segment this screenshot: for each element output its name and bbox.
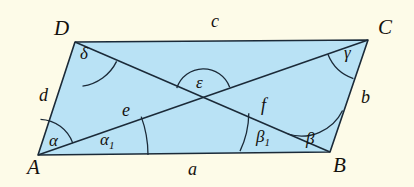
angle-label-alpha1-base: α [100,130,109,149]
geometry-figure: A B C D a b c d e f α α1 β β1 γ δ ε [0,0,414,187]
angle-label-gamma: γ [344,44,351,61]
vertex-label-a: A [27,157,40,178]
diagonal-label-f: f [261,96,266,114]
side-label-c: c [211,12,219,30]
angle-label-alpha: α [49,132,58,149]
angle-label-beta1-sub: 1 [264,136,270,148]
angle-label-delta: δ [80,45,88,62]
side-label-b: b [361,88,370,106]
angle-label-epsilon: ε [196,74,203,91]
angle-label-alpha1-sub: 1 [109,139,115,151]
side-label-d: d [39,86,48,104]
side-label-a: a [188,160,197,178]
angle-label-alpha1: α1 [100,131,114,151]
vertex-label-d: D [54,18,69,39]
diagonal-label-e: e [122,101,130,119]
vertex-label-c: C [378,17,392,38]
angle-label-beta: β [306,130,314,147]
vertex-label-b: B [333,155,346,176]
angle-label-beta1: β1 [256,128,270,148]
